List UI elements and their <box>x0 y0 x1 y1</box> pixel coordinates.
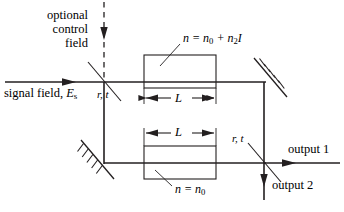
mirror-hatch-icon <box>78 144 103 174</box>
signal-field-text: signal field, <box>4 86 63 100</box>
output-2-path <box>260 163 267 200</box>
signal-field-subscript: s <box>74 91 78 101</box>
mirror-bottom-left <box>78 140 115 179</box>
nonlinear-index-equals: = <box>192 31 200 45</box>
signal-beam-path <box>5 78 104 86</box>
length-top-label: L <box>175 91 182 105</box>
linear-index-n: n <box>175 182 181 196</box>
linear-index-n0-sub: 0 <box>201 187 205 197</box>
output-1-path <box>264 159 340 167</box>
nonlinear-index-intensity: I <box>238 31 242 45</box>
optional-control-field-line-1: optional <box>24 8 88 22</box>
output-1-label: output 1 <box>288 142 329 156</box>
mirror-top-right <box>254 58 287 97</box>
nonlinear-index-n: n <box>183 31 189 45</box>
control-arrow-icon <box>100 27 107 40</box>
output1-arrow-icon <box>282 159 296 167</box>
nonlinear-medium-box <box>144 55 216 88</box>
linear-index-label: n = n0 <box>175 183 205 198</box>
signal-field-symbol: E <box>66 86 74 100</box>
output2-arrow-icon <box>260 174 267 187</box>
nonlinear-index-n0-sub: 0 <box>209 36 213 46</box>
mach-zehnder-figure: optional control field signal field, Es … <box>0 0 344 212</box>
beamsplitter-2-label: r, t <box>232 132 244 144</box>
length-bottom-label: L <box>175 125 182 139</box>
nonlinear-index-plus: + <box>216 31 224 45</box>
signal-field-label: signal field, Es <box>4 86 77 101</box>
nonlinear-index-label: n = n0 + n2I <box>183 32 242 47</box>
signal-arrow-icon <box>62 78 76 86</box>
beamsplitter-1-label: r, t <box>97 88 109 100</box>
control-field-beam-path <box>100 2 107 82</box>
output-2-label: output 2 <box>272 178 313 192</box>
optional-control-field-label: optional control field <box>24 8 88 50</box>
optional-control-field-line-2: control <box>24 22 88 36</box>
optional-control-field-line-3: field <box>24 36 88 50</box>
linear-index-equals: = <box>184 182 192 196</box>
